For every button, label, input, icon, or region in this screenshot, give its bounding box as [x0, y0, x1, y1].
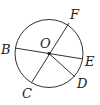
label-o: O [40, 36, 51, 51]
label-d: D [76, 76, 88, 91]
label-b: B [0, 42, 11, 57]
center-point-o [47, 52, 50, 55]
label-c: C [22, 86, 32, 101]
circle-diagram: O B E F C D [0, 0, 100, 105]
label-e: E [84, 54, 95, 69]
diameter-cf [32, 23, 69, 82]
label-f: F [69, 7, 80, 22]
